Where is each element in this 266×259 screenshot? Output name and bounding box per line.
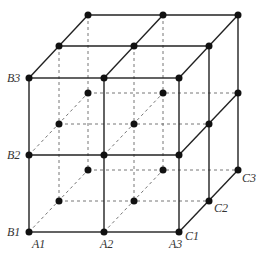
label-c3: C3 xyxy=(242,171,256,185)
label-a3: A3 xyxy=(168,237,182,251)
label-b3: B3 xyxy=(7,71,20,85)
lattice-points xyxy=(26,12,242,236)
lattice-cube-diagram: B3 B2 B1 A1 A2 A3 C1 C2 C3 xyxy=(0,0,266,259)
axis-labels: B3 B2 B1 A1 A2 A3 C1 C2 C3 xyxy=(7,71,256,251)
label-b1: B1 xyxy=(7,225,20,239)
label-c2: C2 xyxy=(214,201,228,215)
label-c1: C1 xyxy=(185,229,199,243)
label-a1: A1 xyxy=(31,237,45,251)
label-b2: B2 xyxy=(7,148,20,162)
label-a2: A2 xyxy=(99,237,113,251)
